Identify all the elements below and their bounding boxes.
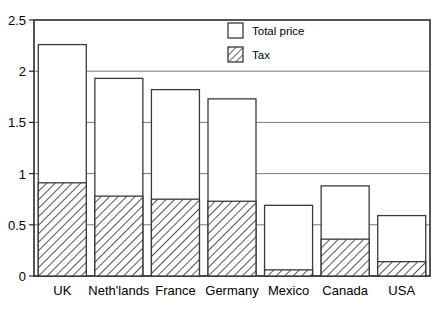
y-tick-label-0: 0 (19, 269, 26, 284)
x-tick-label: Canada (322, 283, 368, 298)
bar-tax (151, 199, 199, 276)
y-tick-label-0-5: 0.5 (8, 218, 26, 233)
bar-group (378, 216, 426, 276)
bar-tax (321, 239, 369, 276)
chart-container: 0 0.5 1 1.5 2 2.5 UKNeth'landsFranceGerm… (0, 0, 438, 314)
y-tick-label-2-5: 2.5 (8, 13, 26, 28)
bar-tax (95, 196, 143, 276)
y-tick-label-2: 2 (19, 64, 26, 79)
category-labels: UKNeth'landsFranceGermanyMexicoCanadaUSA (53, 283, 415, 298)
bar-group (38, 45, 86, 276)
x-tick-label: Mexico (268, 283, 309, 298)
y-tick-label-1: 1 (19, 167, 26, 182)
bar-group (151, 90, 199, 276)
bar-tax (208, 201, 256, 276)
x-tick-label: UK (53, 283, 71, 298)
bar-group (265, 205, 313, 276)
x-tick-label: France (155, 283, 195, 298)
hatched-swatch-icon (228, 47, 243, 62)
bar-total-price (265, 205, 313, 276)
bar-group (208, 99, 256, 276)
bar-tax (265, 270, 313, 276)
bar-chart: 0 0.5 1 1.5 2 2.5 UKNeth'landsFranceGerm… (0, 0, 438, 314)
empty-swatch-icon (228, 23, 243, 38)
x-tick-label: Neth'lands (88, 283, 150, 298)
bar-group (95, 78, 143, 276)
x-tick-label: Germany (205, 283, 259, 298)
bar-tax (378, 262, 426, 276)
bar-group (321, 186, 369, 276)
bar-tax (38, 183, 86, 276)
legend-label-total-price: Total price (252, 25, 304, 37)
legend-label-tax: Tax (252, 49, 270, 61)
x-tick-label: USA (388, 283, 415, 298)
y-tick-label-1-5: 1.5 (8, 115, 26, 130)
